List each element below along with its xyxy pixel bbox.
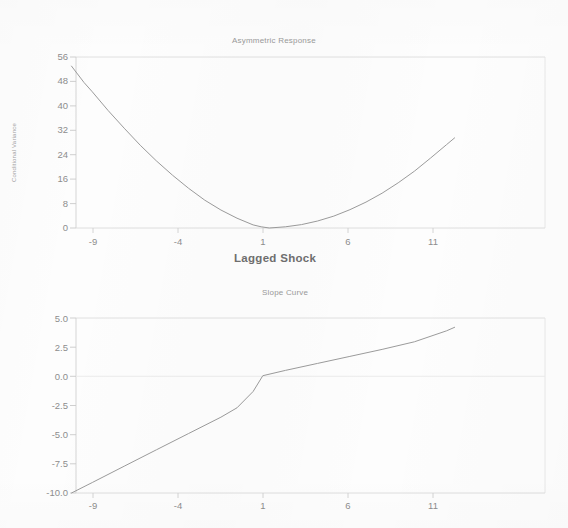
plot-frame-bottom <box>76 318 545 493</box>
figure-page: Asymmetric Response Conditional Variance… <box>0 0 568 528</box>
x-tick-marks-bottom <box>93 493 433 498</box>
y-tick-marks-bottom <box>70 318 76 493</box>
chart-svg-top <box>0 0 568 288</box>
chart-panel-slope-curve: Slope Curve 5.0 2.5 0.0 -2.5 -5.0 -7.5 -… <box>0 288 568 528</box>
y-tick-marks-top <box>70 57 76 228</box>
chart-panel-asymmetric-response: Asymmetric Response Conditional Variance… <box>0 0 568 288</box>
plot-frame-top <box>76 57 545 228</box>
x-tick-marks-top <box>93 228 433 233</box>
series-line-conditional-variance <box>72 66 455 228</box>
chart-svg-bottom <box>0 288 568 528</box>
series-line-slope <box>72 327 455 493</box>
